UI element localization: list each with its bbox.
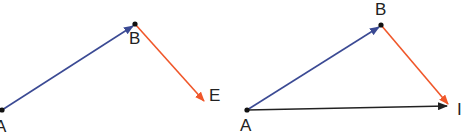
vector-be-left <box>135 24 204 101</box>
point-b-left <box>132 21 137 26</box>
label-b-right: B <box>375 1 386 18</box>
vector-be-right <box>381 25 448 104</box>
label-b-left: B <box>129 30 140 47</box>
point-b-right <box>378 22 383 27</box>
label-a-right: A <box>240 117 251 134</box>
right-diagram <box>244 22 448 112</box>
vector-ae-right <box>247 106 447 110</box>
vector-ab-left <box>2 26 133 110</box>
vector-diagram <box>0 0 461 134</box>
label-e-right: I <box>457 101 461 118</box>
label-e-left: E <box>209 87 220 104</box>
point-a-right <box>244 107 249 112</box>
left-diagram <box>0 21 204 112</box>
vector-ab-right <box>247 27 379 110</box>
label-a-left: A <box>0 118 6 134</box>
